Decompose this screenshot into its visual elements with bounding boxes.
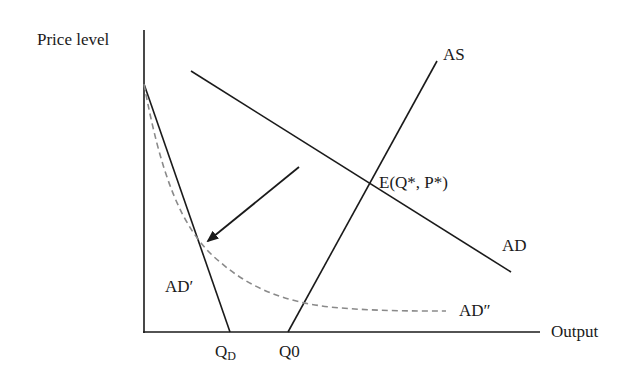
ad-as-diagram: Price level Output AS AD AD′ AD″ E(Q*, P… [0, 0, 639, 372]
qd-tick-sub: D [227, 349, 236, 363]
shift-arrow [208, 167, 299, 241]
q0-tick-label: Q0 [279, 342, 300, 361]
x-axis-label: Output [551, 322, 599, 341]
qd-tick-main: Q [215, 342, 227, 361]
ad-curve [191, 71, 511, 272]
ad-prime-label: AD′ [165, 277, 193, 296]
as-curve [288, 61, 437, 332]
as-label: AS [443, 45, 465, 64]
ad-double-prime-label: AD″ [459, 301, 491, 320]
ad-label: AD [502, 236, 527, 255]
equilibrium-label: E(Q*, P*) [379, 173, 448, 192]
y-axis-label: Price level [37, 30, 109, 49]
qd-tick-label: QD [215, 342, 236, 363]
